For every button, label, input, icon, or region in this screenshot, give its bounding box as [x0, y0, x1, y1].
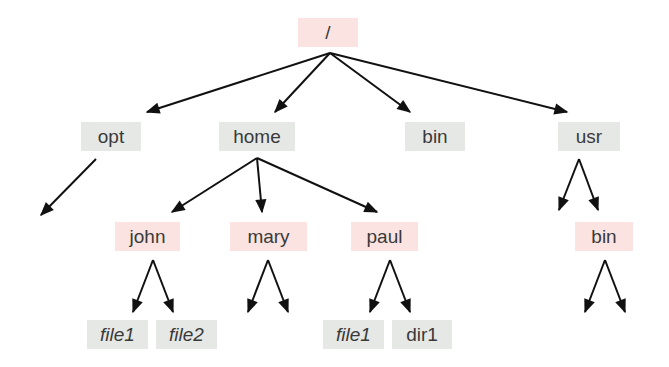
edge-home-john: [172, 158, 257, 212]
node-home: home: [219, 122, 295, 151]
node-label: dir1: [406, 324, 438, 345]
edge-john-file2: [153, 260, 173, 312]
node-label: mary: [247, 226, 289, 247]
edge-usrbin-child-2: [605, 260, 625, 312]
node-opt: opt: [81, 122, 141, 151]
edge-paul-dir1: [390, 260, 410, 312]
edge-root-usr: [330, 53, 567, 112]
node-label: bin: [422, 126, 447, 147]
edge-john-file1: [133, 260, 153, 312]
edge-mary-child-1: [248, 260, 268, 312]
node-label: john: [130, 226, 166, 247]
tree-edges: [0, 0, 669, 367]
edge-usr-child: [559, 159, 579, 210]
node-label: home: [233, 126, 281, 147]
node-paul: paul: [351, 222, 418, 251]
edge-usr-bin: [579, 159, 598, 210]
node-label: opt: [98, 126, 124, 147]
node-usr: usr: [558, 122, 620, 151]
node-paul-dir1: dir1: [392, 320, 452, 349]
node-paul-file1: file1: [323, 320, 384, 349]
node-label: file1: [336, 324, 371, 345]
edge-root-bin: [330, 53, 410, 112]
node-root: /: [298, 18, 358, 47]
node-label: file2: [169, 324, 204, 345]
node-john-file2: file2: [156, 320, 217, 349]
node-mary: mary: [230, 222, 307, 251]
node-label: paul: [367, 226, 403, 247]
node-bin: bin: [405, 122, 465, 151]
edge-opt-child: [41, 159, 96, 215]
node-john-file1: file1: [87, 320, 148, 349]
node-label: /: [325, 22, 330, 43]
edge-home-mary: [257, 158, 262, 212]
edge-home-paul: [257, 158, 377, 212]
edge-mary-child-2: [268, 260, 288, 312]
node-usr-bin: bin: [575, 222, 633, 251]
node-john: john: [115, 222, 180, 251]
directory-tree-diagram: / opt home bin usr john mary paul bin fi…: [0, 0, 669, 367]
edge-paul-file1: [370, 260, 390, 312]
node-label: bin: [591, 226, 616, 247]
edge-usrbin-child-1: [585, 260, 605, 312]
node-label: usr: [576, 126, 602, 147]
node-label: file1: [100, 324, 135, 345]
